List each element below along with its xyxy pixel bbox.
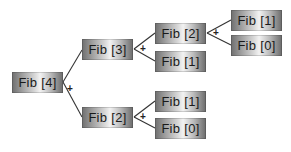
- plus-operator: +: [67, 84, 73, 94]
- edge-fib2-fib0-top: [207, 33, 231, 45]
- node-fib-1-mid: Fib [1]: [155, 51, 206, 72]
- plus-operator: +: [140, 44, 146, 54]
- plus-operator: +: [140, 112, 146, 122]
- plus-operator: +: [213, 28, 219, 38]
- node-fib-0-lower: Fib [0]: [155, 118, 206, 139]
- node-fib-0-top: Fib [0]: [231, 35, 282, 56]
- edge-fib2-fib1-top: [207, 20, 231, 33]
- node-fib-1-lower: Fib [1]: [155, 91, 206, 112]
- node-fib-1-top: Fib [1]: [231, 10, 282, 31]
- node-fib-2-upper: Fib [2]: [155, 23, 206, 44]
- node-fib-2-lower: Fib [2]: [82, 107, 133, 128]
- node-fib-4: Fib [4]: [12, 72, 63, 93]
- edge-fib4-fib3: [63, 50, 82, 82]
- node-fib-3: Fib [3]: [82, 39, 133, 60]
